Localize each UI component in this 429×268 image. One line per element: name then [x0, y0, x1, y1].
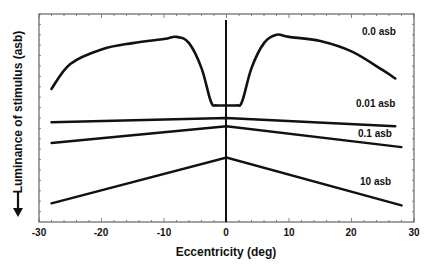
- x-axis-title: Eccentricity (deg): [176, 245, 277, 259]
- x-tick-label: -30: [32, 227, 47, 238]
- series-label-0.1-asb: 0.1 asb: [358, 128, 392, 139]
- series-0.0-asb-line: [52, 34, 396, 105]
- y-axis-title: Luminance of stimulus (asb): [11, 31, 25, 194]
- x-axis-tick-labels: -30 -20 -10 0 10 20 30: [32, 227, 420, 238]
- down-arrow-icon: [13, 192, 23, 217]
- x-tick-label: 0: [223, 227, 229, 238]
- x-tick-label: 30: [408, 227, 420, 238]
- series-label-0.0-asb: 0.0 asb: [362, 26, 396, 37]
- x-tick-label: -20: [94, 227, 109, 238]
- chart: 0.0 asb 0.01 asb 0.1 asb 10 asb -30 -20 …: [0, 0, 429, 268]
- x-tick-label: -10: [157, 227, 172, 238]
- x-tick-label: 20: [345, 227, 357, 238]
- x-tick-label: 10: [283, 227, 295, 238]
- series-0.01-asb-line: [52, 118, 396, 126]
- series-label-10-asb: 10 asb: [360, 176, 391, 187]
- series-label-0.01-asb: 0.01 asb: [356, 98, 395, 109]
